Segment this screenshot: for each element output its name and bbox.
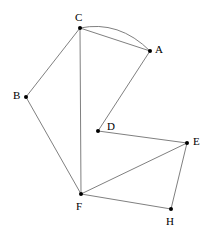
node-label-h: H [166, 216, 174, 227]
edge-b-f [26, 97, 81, 194]
node-label-a: A [155, 44, 163, 55]
node-d[interactable] [96, 129, 100, 133]
edge-c-a-straight [80, 28, 150, 51]
node-h[interactable] [169, 207, 173, 211]
graph-svg-layer [0, 0, 209, 239]
node-e[interactable] [185, 141, 189, 145]
edge-f-h [81, 194, 171, 209]
node-label-f: F [76, 201, 82, 212]
graph-diagram-canvas: ABCDEFH [0, 0, 209, 239]
node-label-c: C [75, 12, 82, 23]
node-b[interactable] [24, 95, 28, 99]
node-label-d: D [107, 121, 115, 132]
edge-c-f [80, 28, 81, 194]
edge-d-e [98, 131, 187, 143]
edge-a-d [98, 51, 150, 131]
node-c[interactable] [78, 26, 82, 30]
edge-c-b [26, 28, 80, 97]
edge-e-h [171, 143, 187, 209]
node-label-b: B [13, 90, 20, 101]
node-label-e: E [193, 136, 200, 147]
node-f[interactable] [79, 192, 83, 196]
node-a[interactable] [148, 49, 152, 53]
edge-f-e [81, 143, 187, 194]
